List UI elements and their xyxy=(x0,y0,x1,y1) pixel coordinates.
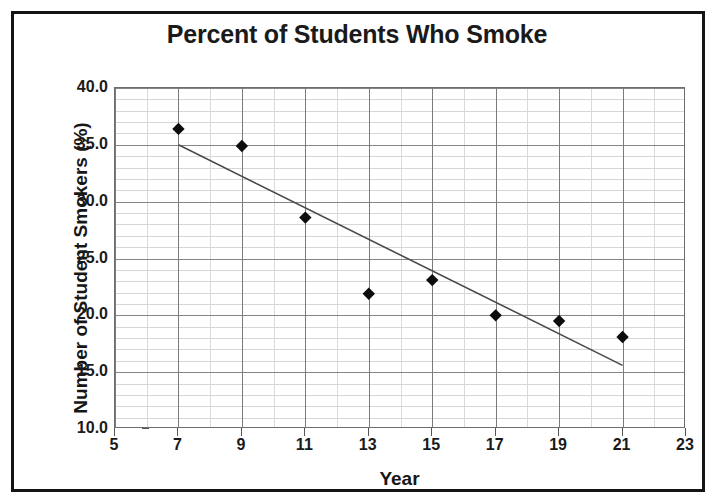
y-axis-tick-label: 20.0 xyxy=(46,305,108,323)
plot-area xyxy=(114,87,685,428)
data-point-marker xyxy=(236,140,248,152)
x-axis-tick-label: 17 xyxy=(470,436,520,454)
data-point-marker xyxy=(489,309,501,321)
data-point-marker xyxy=(553,315,565,327)
x-axis-tick-label: 15 xyxy=(406,436,456,454)
y-axis-tick-label: 35.0 xyxy=(46,135,108,153)
x-axis-tick-mark xyxy=(622,428,623,436)
x-axis-tick-layer: 57911131517192123 xyxy=(114,436,685,462)
chart-title: Percent of Students Who Smoke xyxy=(0,20,714,49)
data-point-marker xyxy=(426,274,438,286)
y-axis-tick-label: 15.0 xyxy=(46,362,108,380)
x-axis-tick-label: 5 xyxy=(89,436,139,454)
x-axis-label: Year xyxy=(114,468,685,490)
data-point-markers xyxy=(172,123,629,343)
y-axis-tick-label: 30.0 xyxy=(46,192,108,210)
x-axis-tick-mark xyxy=(431,428,432,436)
trendline xyxy=(178,145,622,366)
data-series-layer xyxy=(115,88,685,428)
x-axis-tick-mark xyxy=(495,428,496,436)
y-axis-tick-label: 25.0 xyxy=(46,249,108,267)
x-axis-tick-label: 9 xyxy=(216,436,266,454)
x-axis-tick-label: 13 xyxy=(343,436,393,454)
data-point-marker xyxy=(299,211,311,223)
x-axis-tick-mark xyxy=(368,428,369,436)
x-axis-tick-mark xyxy=(114,428,115,436)
y-axis-tick-mark xyxy=(142,428,149,429)
data-point-marker xyxy=(616,331,628,343)
data-point-marker xyxy=(363,288,375,300)
x-axis-tick-label: 23 xyxy=(660,436,710,454)
y-axis-tick-label: 40.0 xyxy=(46,78,108,96)
x-axis-tick-mark xyxy=(177,428,178,436)
x-axis-tick-mark xyxy=(685,428,686,436)
x-axis-tick-mark xyxy=(304,428,305,436)
x-axis-tick-label: 7 xyxy=(152,436,202,454)
x-axis-tick-mark xyxy=(241,428,242,436)
x-axis-tick-label: 11 xyxy=(279,436,329,454)
x-axis-tick-mark xyxy=(558,428,559,436)
y-axis-tick-label: 10.0 xyxy=(46,419,108,437)
y-axis-tick-layer: 10.015.020.025.030.035.040.0 xyxy=(34,87,108,428)
x-axis-tick-label: 19 xyxy=(533,436,583,454)
x-axis-tick-label: 21 xyxy=(597,436,647,454)
data-point-marker xyxy=(172,123,184,135)
figure-root: Percent of Students Who Smoke Number of … xyxy=(0,0,714,504)
